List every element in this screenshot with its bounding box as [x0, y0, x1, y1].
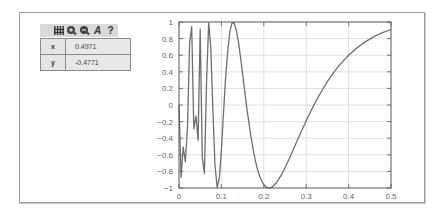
y-tick-label: 0	[169, 101, 174, 110]
x-tick-label: 0.1	[216, 192, 228, 201]
x-tick-label: 0	[177, 192, 182, 201]
y-axis-tick-labels: 10.80.60.40.20−0.2−0.4−0.6−0.8−1	[157, 18, 173, 193]
y-tick-label: −0.2	[157, 118, 173, 127]
x-tick-label: 0.2	[258, 192, 270, 201]
y-tick-label: 1	[169, 18, 174, 27]
y-tick-label: 0.4	[162, 68, 174, 77]
y-tick-label: −0.6	[157, 151, 173, 160]
y-tick-label: −0.4	[157, 134, 173, 143]
y-tick-label: 0.8	[162, 35, 174, 44]
y-tick-label: 0.6	[162, 51, 174, 60]
line-chart[interactable]: 10.80.60.40.20−0.2−0.4−0.6−0.8−1 00.10.2…	[0, 0, 445, 215]
y-tick-label: 0.2	[162, 84, 174, 93]
x-axis-tick-labels: 00.10.20.30.40.5	[177, 192, 397, 201]
y-tick-label: −1	[164, 184, 174, 193]
x-tick-label: 0.5	[385, 192, 397, 201]
x-tick-label: 0.4	[343, 192, 355, 201]
y-tick-label: −0.8	[157, 167, 173, 176]
x-tick-label: 0.3	[301, 192, 313, 201]
